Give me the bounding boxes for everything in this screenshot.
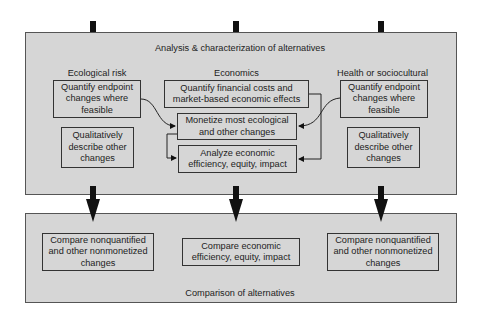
health-to-monetize-arrow	[299, 98, 340, 126]
down-arrow-center	[229, 186, 243, 222]
quantify-to-analyze-arrow	[299, 94, 321, 159]
monetize-to-analyze-arrow	[167, 134, 177, 158]
down-arrow-right	[374, 186, 388, 222]
connector-arrows	[0, 0, 480, 319]
down-arrow-left	[86, 186, 100, 222]
eco-to-monetize-arrow	[141, 99, 175, 126]
